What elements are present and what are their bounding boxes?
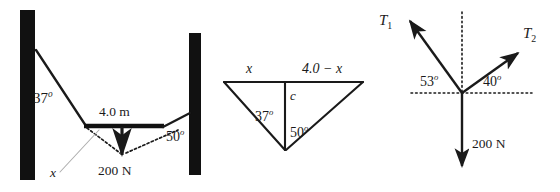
figure-vector-layer — [0, 0, 560, 192]
x-leader-line — [60, 130, 99, 172]
left-panel-angle-37: 37o — [33, 90, 53, 106]
triangle-altitude-label: c — [290, 89, 296, 102]
right-panel-weight-label: 200 N — [472, 137, 505, 151]
tension-1-label: T1 — [379, 13, 392, 31]
left-panel-x-label: x — [50, 166, 56, 180]
left-panel-angle-50: 50o — [166, 128, 184, 144]
triangle-angle-37: 37o — [255, 108, 273, 124]
left-panel-weight-label: 200 N — [98, 164, 131, 178]
triangle-right-side — [286, 82, 363, 150]
physics-figure: 37o 4.0 m 50o 200 N x x 4.0 − x c 37o 50… — [0, 0, 560, 192]
dotted-line-left — [87, 128, 120, 153]
panel-right-graphics — [410, 12, 532, 166]
triangle-angle-50: 50o — [290, 124, 308, 140]
left-panel-beam-length: 4.0 m — [99, 105, 130, 119]
right-rope — [163, 113, 190, 127]
tension-2-label: T2 — [523, 26, 536, 44]
triangle-right-segment-label: 4.0 − x — [302, 62, 342, 76]
right-panel-angle-40: 40o — [483, 73, 501, 89]
right-wall — [189, 33, 201, 175]
right-panel-angle-53: 53o — [420, 73, 438, 89]
left-rope — [36, 50, 86, 126]
triangle-left-segment-label: x — [246, 62, 252, 76]
